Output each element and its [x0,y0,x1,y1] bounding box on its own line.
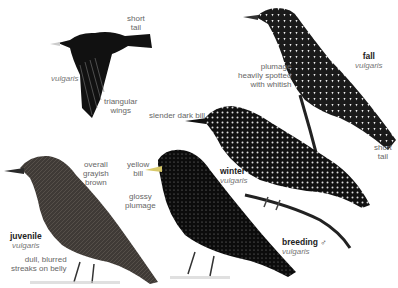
label-winter: winter vulgaris [220,167,248,185]
label-slender-dark-bill: slender dark bill [149,111,205,120]
label-triangular-wings: triangular wings [104,97,137,115]
label-yellow-bill: yellow bill [127,160,149,178]
starling-plate-illustration [0,0,398,288]
label-breeding-male: breeding ♂ vulgaris [282,238,327,256]
label-dull-blurred-streaks: dull, blurred streaks on belly [11,255,67,273]
label-flight-short-tail: short tail [127,14,145,32]
label-fall: fall vulgaris [355,52,383,70]
label-overall-grayish-brown: overall grayish brown [83,160,109,187]
label-flight-vulgaris: vulgaris [51,74,79,83]
label-glossy-plumage: glossy plumage [125,192,156,210]
label-juvenile: juvenile vulgaris [10,232,42,250]
label-fall-plumage: plumage heavily spotted with whitish [238,62,291,89]
label-fall-short-tail: short tail [374,143,392,161]
